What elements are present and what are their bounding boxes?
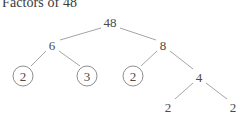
- tree-node-n2d: 2: [230, 101, 237, 114]
- tree-node-n3: 3: [77, 66, 98, 87]
- tree-edge-n48-n8: [120, 28, 156, 40]
- tree-edge-n4-n2d: [206, 83, 227, 99]
- tree-edge-n8-n4: [170, 51, 193, 69]
- tree-node-n8: 8: [160, 39, 167, 52]
- tree-node-n2b: 2: [123, 66, 144, 87]
- tree-node-n4: 4: [196, 71, 203, 84]
- tree-edge-n4-n2c: [175, 83, 193, 99]
- tree-node-n6: 6: [49, 39, 56, 52]
- tree-edge-n6-n3: [59, 51, 80, 66]
- tree-node-n2c: 2: [165, 101, 172, 114]
- tree-edges-layer: [0, 0, 243, 122]
- tree-edge-n48-n6: [60, 28, 101, 40]
- tree-edge-n8-n2b: [141, 51, 157, 66]
- tree-node-n2a: 2: [13, 66, 34, 87]
- factor-tree-diagram: Factors of 48 4868232422: [0, 0, 243, 122]
- tree-edge-n6-n2a: [31, 51, 46, 66]
- tree-node-n48: 48: [104, 16, 117, 29]
